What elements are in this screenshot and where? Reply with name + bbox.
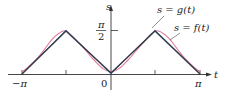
f-label: s = f(t): [174, 22, 209, 33]
g-label: s = g(t): [157, 4, 195, 15]
axes: [8, 5, 212, 90]
y-tick-pi-denominator: 2: [98, 31, 104, 42]
f-pointer: [170, 33, 180, 40]
s-axis-label: s: [106, 1, 111, 12]
g-pointer: [152, 16, 164, 28]
t-axis-label: t: [214, 69, 219, 80]
x-tick-zero: 0: [101, 78, 107, 89]
x-tick-pi: π: [194, 78, 202, 89]
x-tick-neg-pi: −π: [12, 78, 27, 89]
t-axis-arrow-icon: [206, 73, 212, 77]
chart: s t π 2 −π 0 π s = g(t) s = f(t): [0, 0, 228, 92]
y-tick-pi-numerator: π: [97, 19, 105, 30]
